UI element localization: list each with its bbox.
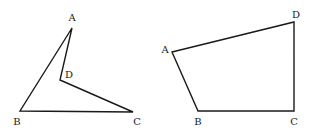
- vertex-label-left-d: D: [65, 70, 73, 80]
- vertex-label-left-b: B: [13, 117, 20, 127]
- vertex-label-right-d: D: [292, 10, 300, 20]
- vertex-label-left-c: C: [133, 117, 141, 127]
- geometry-diagram: A D C B A D C B: [0, 0, 312, 132]
- vertex-label-right-c: C: [290, 117, 298, 127]
- concave-quadrilateral-shape: [20, 28, 133, 112]
- vertex-label-right-b: B: [194, 117, 201, 127]
- vertex-label-left-a: A: [68, 13, 75, 23]
- vertex-label-right-a: A: [161, 45, 168, 55]
- convex-quadrilateral-shape: [172, 22, 294, 111]
- diagram-canvas: [0, 0, 312, 132]
